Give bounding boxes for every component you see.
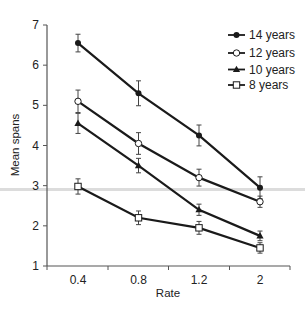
legend-label: 10 years (249, 63, 295, 77)
series-14-years (75, 34, 263, 198)
x-tick-label: 0.4 (70, 273, 87, 287)
marker-filled-diamond (136, 90, 142, 96)
legend: 14 years12 years10 years8 years (228, 28, 295, 92)
x-tick-label: 2 (257, 273, 264, 287)
series-10-years (74, 113, 263, 240)
x-axis-title: Rate (156, 287, 180, 299)
series-line (78, 43, 260, 188)
marker-open-square (233, 82, 239, 88)
y-tick-label: 1 (32, 259, 39, 273)
marker-open-square (135, 215, 141, 221)
series-group (74, 34, 263, 253)
marker-open-circle (233, 50, 239, 56)
marker-open-circle (257, 199, 263, 205)
legend-item: 8 years (228, 78, 288, 92)
marker-open-square (75, 183, 81, 189)
y-axis-title: Mean spans (9, 113, 21, 176)
y-tick-label: 7 (32, 18, 39, 32)
series-line (78, 123, 260, 235)
axes (47, 25, 290, 266)
chart: 1234567 0.40.81.22 14 years12 years10 ye… (0, 0, 305, 313)
legend-label: 14 years (249, 28, 295, 42)
legend-item: 12 years (228, 46, 295, 60)
x-ticks: 0.40.81.22 (47, 266, 290, 287)
marker-filled-diamond (234, 32, 240, 38)
y-tick-label: 6 (32, 58, 39, 72)
marker-open-circle (196, 174, 202, 180)
marker-open-square (196, 225, 202, 231)
y-tick-label: 2 (32, 219, 39, 233)
marker-open-circle (135, 140, 141, 146)
marker-open-circle (75, 98, 81, 104)
marker-filled-triangle (74, 120, 81, 126)
marker-filled-diamond (257, 185, 263, 191)
y-tick-label: 3 (32, 179, 39, 193)
marker-open-square (257, 245, 263, 251)
series-line (78, 186, 260, 247)
legend-label: 12 years (249, 46, 295, 60)
x-tick-label: 1.2 (191, 273, 208, 287)
y-tick-label: 5 (32, 98, 39, 112)
y-tick-label: 4 (32, 139, 39, 153)
legend-item: 14 years (228, 28, 295, 42)
marker-filled-diamond (75, 40, 81, 46)
y-ticks: 1234567 (32, 18, 47, 273)
legend-item: 10 years (228, 63, 295, 77)
legend-label: 8 years (249, 78, 288, 92)
x-tick-label: 0.8 (130, 273, 147, 287)
marker-filled-diamond (196, 132, 202, 138)
